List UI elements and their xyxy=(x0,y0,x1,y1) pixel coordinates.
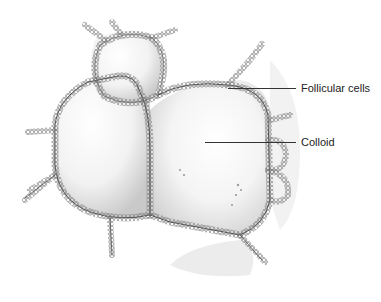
follicular-cells-leader-line xyxy=(228,88,296,89)
thyroid-follicles-illustration xyxy=(0,0,381,302)
follicular-cells-label: Follicular cells xyxy=(301,82,370,94)
colloid-leader-line xyxy=(205,142,296,143)
colloid-label: Colloid xyxy=(301,136,335,148)
colloid-shading xyxy=(52,31,300,276)
